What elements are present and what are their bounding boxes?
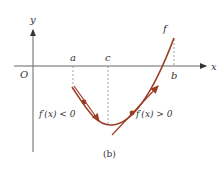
function-label: f xyxy=(162,23,169,34)
annotation-positive-derivative: f′(x) > 0 xyxy=(135,109,173,119)
tangent-point-left xyxy=(82,100,87,105)
tangent-point-right xyxy=(130,111,135,116)
annotation-negative-derivative: f′(x) < 0 xyxy=(38,109,76,119)
origin-label: O xyxy=(20,69,28,80)
point-label-b: b xyxy=(171,70,177,81)
tangent-left xyxy=(74,86,99,121)
derivative-sign-diagram: y x O a c b f f′(x) < 0 f′(x) > 0 (b) xyxy=(0,0,222,171)
figure-caption: (b) xyxy=(103,149,116,159)
point-label-c: c xyxy=(105,52,111,63)
point-label-a: a xyxy=(70,52,76,63)
y-axis-label: y xyxy=(29,14,36,25)
x-axis-label: x xyxy=(211,61,217,72)
